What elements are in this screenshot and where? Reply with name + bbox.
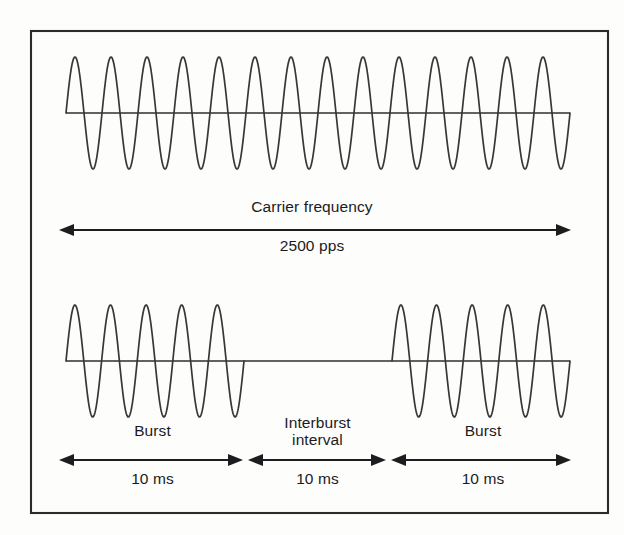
burst-left-label: Burst	[60, 422, 245, 439]
waveform-diagram-svg	[0, 0, 624, 535]
burst-left-arrow	[59, 454, 243, 466]
burst-right-label: Burst	[393, 422, 573, 439]
burst-right-duration-label: 10 ms	[393, 470, 573, 487]
carrier-frequency-arrow	[59, 224, 571, 236]
carrier-frequency-label: Carrier frequency	[172, 198, 452, 215]
interburst-duration-label: 10 ms	[245, 470, 390, 487]
interburst-arrow	[248, 454, 386, 466]
carrier-waveform-group	[66, 57, 570, 169]
interburst-arrow-head-right	[371, 454, 386, 466]
carrier-arrow-head-left	[59, 224, 74, 236]
burst-left-arrow-head-left	[59, 454, 74, 466]
burst-right-arrow	[391, 454, 571, 466]
burst-right-arrow-head-left	[391, 454, 406, 466]
burst-left-arrow-head-right	[228, 454, 243, 466]
interburst-interval-label: Interburst interval	[245, 414, 390, 448]
figure-container: Carrier frequency 2500 pps Burst Interbu…	[0, 0, 624, 535]
burst-left-duration-label: 10 ms	[60, 470, 245, 487]
carrier-arrow-head-right	[556, 224, 571, 236]
burst-waveform-group	[66, 305, 570, 417]
interburst-arrow-head-left	[248, 454, 263, 466]
burst-right-arrow-head-right	[556, 454, 571, 466]
carrier-rate-label: 2500 pps	[172, 237, 452, 254]
